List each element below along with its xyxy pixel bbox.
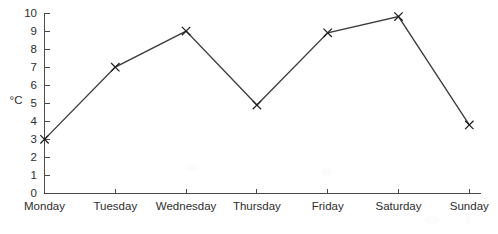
y-tick-label: 3 <box>31 133 37 145</box>
y-tick-label: 5 <box>31 97 37 109</box>
data-point-marker <box>465 121 473 129</box>
y-axis-unit-label: °C <box>10 94 23 106</box>
x-tick-label: Saturday <box>375 200 421 212</box>
y-tick-label: 4 <box>31 115 38 127</box>
y-tick-label: 10 <box>24 7 37 19</box>
y-tick-label: 7 <box>31 61 37 73</box>
x-tick-label: Wednesday <box>156 200 217 212</box>
chart-canvas: 012345678910 MondayTuesdayWednesdayThurs… <box>0 0 498 234</box>
x-tick-label: Thursday <box>233 200 281 212</box>
y-tick-label: 6 <box>31 79 37 91</box>
data-point-marker <box>111 63 119 71</box>
x-tick-label: Sunday <box>450 200 489 212</box>
y-tick-label: 0 <box>31 187 37 199</box>
y-tick-label: 1 <box>31 169 37 181</box>
y-tick-label: 9 <box>31 25 37 37</box>
temperature-line-chart: 012345678910 MondayTuesdayWednesdayThurs… <box>0 0 498 234</box>
x-tick-label: Friday <box>312 200 344 212</box>
data-point-marker <box>253 101 261 109</box>
x-tick-label: Tuesday <box>93 200 137 212</box>
x-axis-tick-labels: MondayTuesdayWednesdayThursdayFridaySatu… <box>24 200 489 212</box>
y-tick-label: 2 <box>31 151 37 163</box>
x-axis-tick-marks <box>45 189 470 194</box>
x-tick-label: Monday <box>24 200 65 212</box>
y-axis-tick-labels: 012345678910 <box>24 7 37 200</box>
y-axis-tick-marks <box>45 13 50 194</box>
y-tick-label: 8 <box>31 43 37 55</box>
data-point-marker <box>182 27 190 35</box>
temperature-series-line <box>45 17 470 140</box>
